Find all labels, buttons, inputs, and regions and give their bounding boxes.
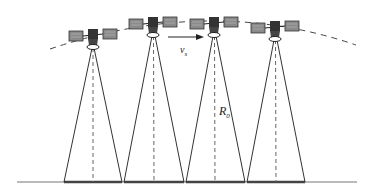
satellite-1 (69, 29, 117, 50)
beam-3 (186, 36, 245, 182)
beam-1 (64, 48, 122, 182)
velocity-arrow-icon (168, 34, 204, 40)
beam-4 (247, 40, 305, 182)
satellite-3 (190, 17, 238, 38)
velocity-subscript: s (184, 50, 187, 58)
radius-label: R0 (219, 104, 230, 120)
satellite-2 (129, 17, 177, 38)
satellite-4 (251, 21, 299, 42)
radius-subscript: 0 (226, 112, 230, 120)
diagram-canvas (0, 0, 376, 191)
velocity-label: vs (180, 44, 187, 58)
beam-2 (124, 36, 184, 182)
